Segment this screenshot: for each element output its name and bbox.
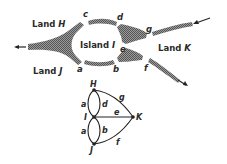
edge-ij-right bbox=[94, 117, 100, 144]
node-k bbox=[131, 115, 135, 119]
edge-g-label: g bbox=[119, 93, 125, 102]
land-k-label: Land K bbox=[158, 43, 192, 53]
bridge-g-label: g bbox=[146, 24, 152, 34]
bridge-b-label: b bbox=[113, 64, 119, 74]
edge-e-label: e bbox=[114, 108, 120, 117]
river-north bbox=[88, 19, 117, 26]
arrow-northeast-icon bbox=[193, 18, 210, 24]
river-northeast-outlet bbox=[152, 22, 193, 36]
bridge-c-label: c bbox=[83, 9, 88, 19]
land-j-label: Land J bbox=[33, 66, 62, 76]
arrow-southeast-icon bbox=[178, 80, 188, 86]
river-southeast-outlet bbox=[148, 58, 180, 83]
island-i-label: Island I bbox=[80, 40, 115, 50]
edge-b-label: b bbox=[102, 126, 108, 135]
node-h-label: H bbox=[90, 80, 97, 89]
edge-a-upper-label: a bbox=[81, 100, 86, 109]
edge-a-lower-label: a bbox=[81, 127, 86, 136]
river-map: Land H Island I Land J Land K a b c d e … bbox=[14, 9, 210, 86]
bridge-a-label: a bbox=[77, 64, 83, 74]
node-k-label: K bbox=[136, 113, 143, 122]
node-i-label: I bbox=[84, 113, 87, 122]
edge-ij-left bbox=[88, 117, 94, 144]
edge-hi-left bbox=[88, 90, 94, 117]
arrow-west-icon bbox=[14, 45, 26, 49]
node-j-label: J bbox=[88, 146, 93, 155]
node-i bbox=[92, 115, 96, 119]
bridge-f-label: f bbox=[144, 63, 149, 73]
river-northeast bbox=[117, 24, 147, 44]
konigsberg-diagram: Land H Island I Land J Land K a b c d e … bbox=[0, 0, 227, 164]
edge-f-label: f bbox=[116, 138, 121, 147]
land-h-label: Land H bbox=[32, 19, 65, 29]
river-south bbox=[84, 60, 115, 66]
edge-d-label: d bbox=[102, 100, 108, 109]
edge-hi-right bbox=[94, 90, 100, 117]
bridge-d-label: d bbox=[117, 12, 124, 22]
bridge-e-label: e bbox=[120, 44, 126, 54]
